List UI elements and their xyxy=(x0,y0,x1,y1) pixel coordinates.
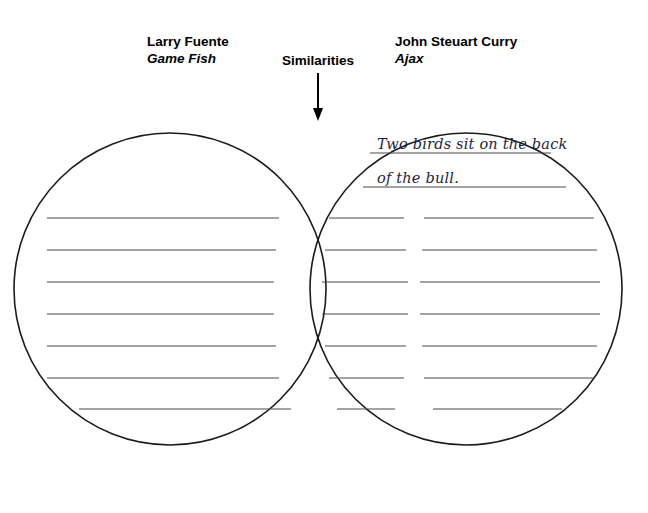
right-circle xyxy=(310,133,622,445)
similarities-arrow-icon xyxy=(313,73,323,121)
worksheet-page: Larry Fuente Game Fish Similarities John… xyxy=(0,0,648,513)
writing-rules xyxy=(47,218,600,409)
handwritten-entry-line-2: of the bull. xyxy=(377,170,459,186)
handwritten-entry-line-1: Two birds sit on the back xyxy=(377,136,567,152)
left-circle xyxy=(14,133,326,445)
venn-diagram xyxy=(0,0,648,513)
